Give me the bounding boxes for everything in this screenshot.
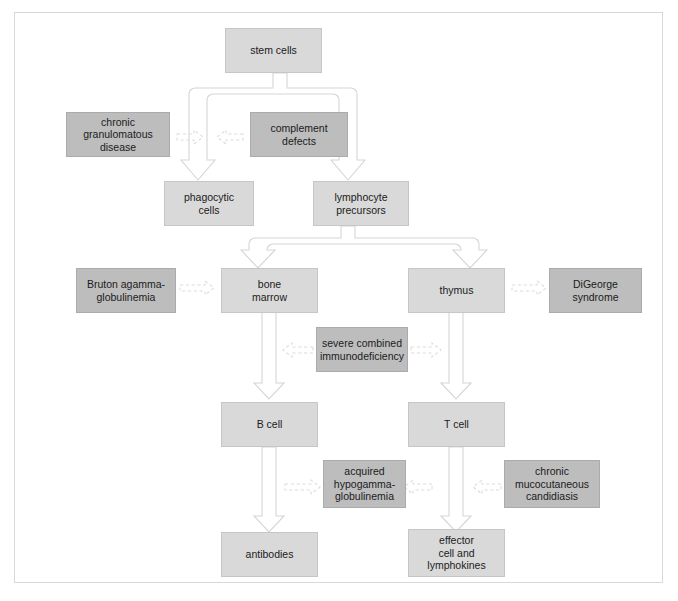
node-stem-cells[interactable]: stem cells xyxy=(225,28,322,73)
node-chronic-mucocutaneous-candidiasis-label: chronicmucocutaneouscandidiasis xyxy=(512,465,592,502)
node-thymus-label: thymus xyxy=(437,284,477,296)
node-phagocytic-cells[interactable]: phagocyticcells xyxy=(164,181,254,226)
node-digeorge-syndrome[interactable]: DiGeorgesyndrome xyxy=(549,268,642,313)
node-bone-marrow[interactable]: bonemarrow xyxy=(221,268,318,313)
node-thymus[interactable]: thymus xyxy=(408,268,505,313)
node-severe-combined-immunodeficiency-label: severe combinedimmunodeficiency xyxy=(317,337,407,362)
node-chronic-granulomatous-disease-label: chronicgranulomatousdisease xyxy=(80,116,155,153)
node-digeorge-syndrome-label: DiGeorgesyndrome xyxy=(569,278,621,303)
node-complement-defects-label: complementdefects xyxy=(267,122,330,147)
node-acquired-hypogammaglobulinemia[interactable]: acquiredhypogamma-globulinemia xyxy=(323,460,406,508)
node-severe-combined-immunodeficiency[interactable]: severe combinedimmunodeficiency xyxy=(316,327,408,372)
node-complement-defects[interactable]: complementdefects xyxy=(250,112,348,157)
node-t-cell[interactable]: T cell xyxy=(408,402,505,447)
node-antibodies[interactable]: antibodies xyxy=(221,532,318,577)
node-lymphocyte-precursors-label: lymphocyteprecursors xyxy=(331,191,390,216)
node-effector-cell-and-lymphokines-label: effectorcell andlymphokines xyxy=(424,534,488,571)
node-effector-cell-and-lymphokines[interactable]: effectorcell andlymphokines xyxy=(408,529,505,577)
node-bruton-agammaglobulinemia-label: Bruton agamma-globulinemia xyxy=(84,278,168,303)
node-b-cell[interactable]: B cell xyxy=(221,402,318,447)
node-lymphocyte-precursors[interactable]: lymphocyteprecursors xyxy=(313,181,409,226)
node-t-cell-label: T cell xyxy=(441,418,472,430)
node-b-cell-label: B cell xyxy=(254,418,286,430)
node-phagocytic-cells-label: phagocyticcells xyxy=(181,191,237,216)
node-bone-marrow-label: bonemarrow xyxy=(249,278,290,303)
figure-container: stem cells chronicgranulomatousdisease c… xyxy=(0,0,678,601)
node-chronic-mucocutaneous-candidiasis[interactable]: chronicmucocutaneouscandidiasis xyxy=(504,460,600,508)
node-acquired-hypogammaglobulinemia-label: acquiredhypogamma-globulinemia xyxy=(331,465,398,502)
node-chronic-granulomatous-disease[interactable]: chronicgranulomatousdisease xyxy=(66,112,170,157)
node-antibodies-label: antibodies xyxy=(243,548,297,560)
node-stem-cells-label: stem cells xyxy=(247,44,300,56)
node-bruton-agammaglobulinemia[interactable]: Bruton agamma-globulinemia xyxy=(76,268,176,313)
